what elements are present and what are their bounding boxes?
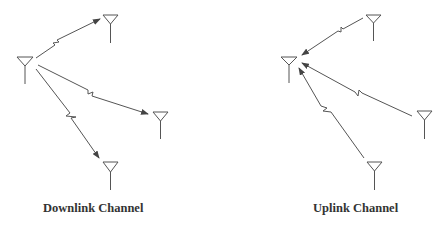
user-antenna-icon — [153, 112, 168, 139]
channel-diagram-canvas — [0, 0, 440, 226]
user-antenna-icon — [417, 111, 432, 139]
user-antenna-icon — [103, 15, 118, 43]
uplink-caption: Uplink Channel — [313, 201, 398, 216]
uplink-signal-arrow — [302, 18, 363, 55]
uplink-signal-arrow — [299, 68, 364, 158]
downlink-signal-arrow — [36, 69, 99, 158]
user-antenna-icon — [366, 15, 381, 41]
base-station-antenna-icon — [281, 57, 297, 83]
downlink-signal-arrow — [36, 19, 100, 58]
downlink-caption: Downlink Channel — [43, 201, 143, 216]
downlink-diagram — [17, 15, 168, 190]
downlink-signal-arrow — [38, 65, 148, 114]
user-antenna-icon — [367, 162, 382, 190]
user-antenna-icon — [103, 162, 118, 190]
uplink-signal-arrow — [302, 63, 412, 116]
base-station-antenna-icon — [17, 57, 33, 84]
uplink-diagram — [281, 15, 432, 190]
